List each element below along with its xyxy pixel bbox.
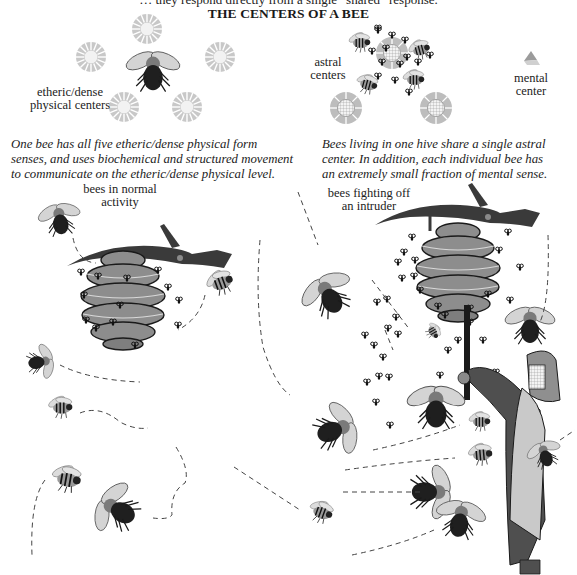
mental-center-icon — [524, 51, 540, 65]
etheric-center-icon — [76, 42, 106, 72]
etheric-center-icon — [172, 92, 202, 122]
etheric-center-icon — [132, 14, 162, 44]
normal-activity-scene — [24, 197, 300, 555]
hive-icon — [416, 223, 500, 322]
intruder-label: bees fighting off an intruder — [314, 187, 424, 213]
etheric-caption: One bee has all five etheric/dense physi… — [11, 137, 296, 182]
astral-centers-label: astral centers — [300, 56, 356, 82]
etheric-dense-centers-label: etheric/dense physical centers — [20, 86, 120, 112]
astral-caption: Bees living in one hive share a single a… — [322, 137, 577, 182]
intruder-scene — [291, 183, 575, 574]
normal-activity-label: bees in normal activity — [70, 183, 170, 209]
hive-icon — [81, 251, 165, 350]
etheric-center-icon — [205, 42, 235, 72]
bee-icon — [123, 48, 182, 92]
mental-center-label: mental center — [501, 72, 561, 98]
astral-center-icon — [420, 92, 452, 124]
stick — [464, 305, 470, 400]
astral-center-icon — [330, 92, 362, 124]
